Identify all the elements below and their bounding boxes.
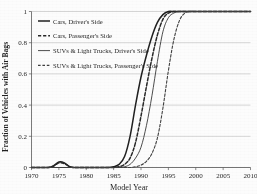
x-axis-tick-labels: 197019751980198519901995200020052010 [25, 172, 258, 180]
y-tick-label: 0.8 [18, 39, 27, 47]
legend-label-4: SUVs & Light Trucks, Passenger's Side [53, 62, 158, 69]
x-tick-label: 1995 [161, 172, 176, 180]
legend-label-1: Cars, Driver's Side [53, 18, 103, 25]
legend-label-3: SUVs & Light Trucks, Driver's Side [53, 47, 149, 54]
y-tick-label: 1 [24, 8, 28, 16]
y-axis-title: Fraction of Vehicles with Air Bags [1, 42, 10, 152]
y-tick-label: 0 [24, 164, 28, 172]
x-tick-label: 2010 [244, 172, 258, 180]
x-tick-label: 1980 [79, 172, 94, 180]
x-axis-title: Model Year [110, 183, 148, 192]
chart-canvas: 197019751980198519901995200020052010 00.… [0, 0, 257, 194]
x-tick-label: 1975 [52, 172, 67, 180]
y-tick-label: 0.6 [18, 70, 27, 78]
x-tick-label: 1990 [134, 172, 149, 180]
x-tick-label: 2000 [189, 172, 204, 180]
x-tick-label: 2005 [216, 172, 231, 180]
y-tick-label: 0.2 [18, 133, 27, 141]
airbag-adoption-chart: 197019751980198519901995200020052010 00.… [0, 0, 257, 194]
y-tick-label: 0.4 [18, 102, 27, 110]
x-tick-label: 1985 [107, 172, 122, 180]
x-tick-label: 1970 [25, 172, 40, 180]
legend-label-2: Cars, Passenger's Side [53, 32, 112, 39]
